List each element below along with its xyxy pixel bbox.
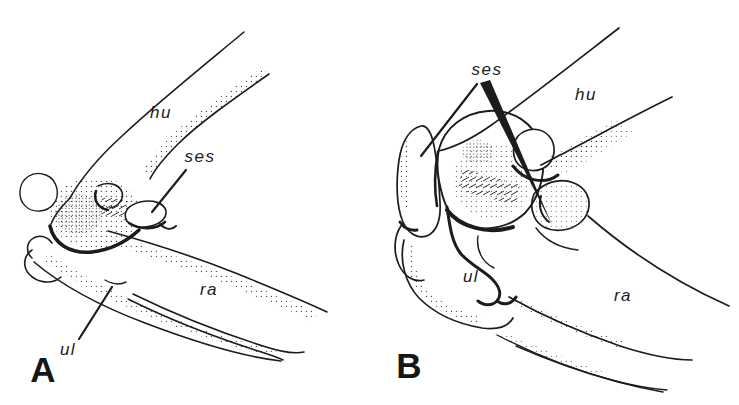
label-humerus-b: hu [575,86,597,103]
sesamoid-flared-b [532,181,589,250]
epicondyle-a [20,173,57,211]
label-sesamoid-b: ses [472,61,503,78]
label-sesamoid-a: ses [185,148,216,165]
elbow-joint-illustration [0,0,739,405]
label-ulna-b: ul [463,268,479,285]
label-radius-a: ra [200,281,218,298]
anatomical-figure: hu ses ra ul A ses hu ul ra B [0,0,739,405]
panel-letter-b: B [396,348,421,383]
panel-b-drawing [395,28,729,392]
ulna-distal-b [497,331,667,392]
leader-ses-a [152,170,186,212]
sesamoid-bone-a [125,201,176,229]
label-humerus-a: hu [150,104,172,121]
label-ulna-a: ul [60,341,76,358]
panel-a-drawing [20,32,327,361]
label-radius-b: ra [614,287,632,304]
panel-letter-a: A [30,352,55,387]
